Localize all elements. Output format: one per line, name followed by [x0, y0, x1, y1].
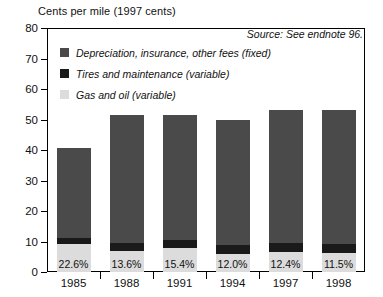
- x-tick-label: 1991: [167, 277, 193, 289]
- chart-container: Cents per mile (1997 cents) Source: See …: [0, 0, 383, 297]
- bar-percent-label: 13.6%: [112, 258, 142, 270]
- x-axis-separator: [259, 272, 260, 279]
- bar-segment-fixed: [216, 120, 250, 245]
- y-tick-label: 40: [14, 144, 38, 156]
- y-tick-label: 10: [14, 236, 38, 248]
- bar-percent-label: 12.4%: [271, 258, 301, 270]
- bar-percent-label: 12.0%: [218, 258, 248, 270]
- bar-1994: [216, 120, 250, 273]
- bar-segment-tires: [110, 243, 144, 250]
- bar-1991: [163, 115, 197, 272]
- x-axis-separator: [153, 272, 154, 279]
- bars-layer: 22.6%13.6%15.4%12.0%12.4%11.5%: [47, 28, 365, 272]
- x-tick-label: 1994: [220, 277, 246, 289]
- y-tick-label: 20: [14, 205, 38, 217]
- bar-segment-tires: [269, 243, 303, 252]
- x-tick-label: 1985: [61, 277, 87, 289]
- bar-percent-label: 11.5%: [324, 258, 353, 270]
- bar-segment-fixed: [163, 115, 197, 240]
- bar-1988: [110, 115, 144, 272]
- x-axis-separator: [312, 272, 313, 279]
- bar-percent-label: 22.6%: [59, 258, 89, 270]
- bar-segment-fixed: [322, 110, 356, 244]
- y-tick-mark: [41, 272, 47, 273]
- bar-segment-tires: [322, 244, 356, 253]
- bar-1998: [322, 110, 356, 272]
- bar-segment-fixed: [110, 115, 144, 243]
- x-axis-separator: [100, 272, 101, 279]
- x-tick-label: 1988: [114, 277, 140, 289]
- bar-1997: [269, 110, 303, 272]
- bar-segment-tires: [216, 245, 250, 254]
- y-tick-label: 70: [14, 53, 38, 65]
- y-tick-label: 50: [14, 114, 38, 126]
- y-tick-label: 0: [14, 266, 38, 278]
- y-tick-label: 60: [14, 83, 38, 95]
- x-axis-separator: [206, 272, 207, 279]
- bar-1985: [57, 148, 91, 272]
- chart-axis-title: Cents per mile (1997 cents): [38, 5, 176, 17]
- x-tick-label: 1997: [273, 277, 299, 289]
- y-tick-label: 80: [14, 22, 38, 34]
- bar-percent-label: 15.4%: [165, 258, 195, 270]
- x-tick-label: 1998: [326, 277, 352, 289]
- y-tick-label: 30: [14, 175, 38, 187]
- bar-segment-tires: [57, 238, 91, 243]
- bar-segment-tires: [163, 240, 197, 247]
- bar-segment-fixed: [57, 148, 91, 238]
- bar-segment-fixed: [269, 110, 303, 242]
